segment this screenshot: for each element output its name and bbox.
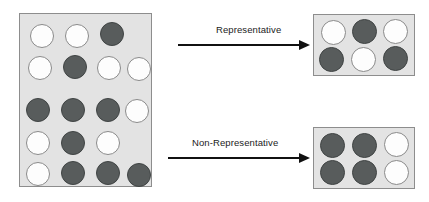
population-circle-dark bbox=[61, 131, 85, 155]
population-circle-light bbox=[26, 162, 50, 186]
arrow-head bbox=[299, 153, 310, 163]
sample-circle-dark bbox=[352, 19, 377, 44]
population-circle-light bbox=[30, 24, 54, 48]
sample-circle-dark bbox=[352, 160, 377, 185]
population-circle-dark bbox=[63, 55, 87, 79]
sample-circle-light bbox=[351, 47, 376, 72]
representative-arrow-icon bbox=[178, 39, 311, 51]
population-circle-light bbox=[28, 56, 52, 80]
sample-circle-dark bbox=[319, 47, 344, 72]
population-circle-dark bbox=[96, 98, 120, 122]
non-representative-arrow-icon bbox=[168, 152, 311, 164]
population-circle-light bbox=[97, 56, 121, 80]
non-representative-sample-box bbox=[313, 127, 415, 189]
sample-circle-dark bbox=[352, 133, 377, 158]
diagram-canvas: Representative Non-Representative bbox=[0, 0, 429, 202]
sample-circle-light bbox=[384, 132, 409, 157]
non-representative-arrow-label: Non-Representative bbox=[192, 137, 278, 148]
population-circle-light bbox=[127, 57, 151, 81]
sample-circle-light bbox=[383, 19, 408, 44]
sample-circle-dark bbox=[383, 46, 408, 71]
representative-sample-box bbox=[313, 14, 415, 76]
representative-arrow-label: Representative bbox=[216, 24, 281, 35]
population-circle-dark bbox=[61, 98, 85, 122]
arrow-shaft bbox=[168, 157, 302, 159]
population-circle-dark bbox=[61, 161, 85, 185]
population-circle-dark bbox=[127, 163, 151, 187]
population-circle-light bbox=[65, 24, 89, 48]
arrow-shaft bbox=[178, 44, 302, 46]
population-circle-dark bbox=[96, 161, 120, 185]
sample-circle-dark bbox=[320, 133, 345, 158]
population-circle-light bbox=[125, 99, 149, 123]
sample-circle-light bbox=[384, 160, 409, 185]
population-circle-dark bbox=[26, 98, 50, 122]
arrow-head bbox=[299, 40, 310, 50]
population-circle-dark bbox=[100, 22, 124, 46]
population-circle-light bbox=[26, 131, 50, 155]
population-box bbox=[19, 13, 152, 187]
sample-circle-dark bbox=[320, 160, 345, 185]
population-circle-light bbox=[96, 131, 120, 155]
sample-circle-light bbox=[321, 20, 346, 45]
